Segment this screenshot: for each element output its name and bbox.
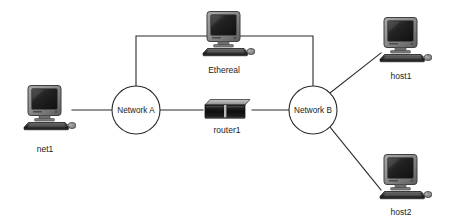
net1-label: net1 — [37, 144, 54, 154]
ethereal-node[interactable]: Ethereal — [203, 12, 255, 76]
desktop-computer-icon — [203, 12, 255, 56]
host1-label: host1 — [391, 71, 412, 81]
router-box-icon — [205, 100, 250, 119]
net1-node[interactable]: net1 — [24, 86, 76, 155]
link-network-a-ethereal — [136, 36, 227, 86]
network-diagram: Network A Network B router1 net1 Etherea… — [0, 0, 451, 223]
desktop-computer-icon — [380, 18, 432, 62]
network-diagram-canvas: Network A Network B router1 net1 Etherea… — [0, 0, 451, 223]
link-ethereal-network-b — [227, 36, 313, 86]
router1-label: router1 — [214, 125, 241, 135]
host2-label: host2 — [391, 207, 412, 217]
network-a-label: Network A — [117, 106, 155, 115]
router1-node[interactable]: router1 — [205, 100, 250, 136]
desktop-computer-icon — [24, 86, 76, 130]
link-network-b-host1 — [330, 53, 381, 93]
network-b-node[interactable]: Network B — [289, 86, 337, 134]
link-network-b-host2 — [330, 127, 381, 190]
network-a-node[interactable]: Network A — [112, 86, 160, 134]
host2-node[interactable]: host2 — [380, 155, 432, 218]
ethereal-label: Ethereal — [208, 65, 240, 75]
desktop-computer-icon — [380, 155, 432, 199]
host1-node[interactable]: host1 — [380, 18, 432, 82]
network-b-label: Network B — [294, 106, 332, 115]
